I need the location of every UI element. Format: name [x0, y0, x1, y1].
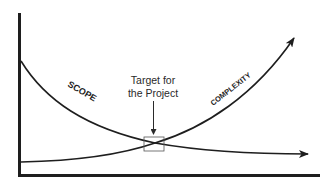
scope-label: SCOPE [66, 79, 98, 103]
complexity-label: COMPLEXITY [209, 70, 253, 107]
scope-complexity-diagram: Target for the Project SCOPE COMPLEXITY [0, 0, 335, 184]
target-label-line1: Target for [131, 74, 176, 86]
target-label-line2: the Project [128, 87, 178, 99]
